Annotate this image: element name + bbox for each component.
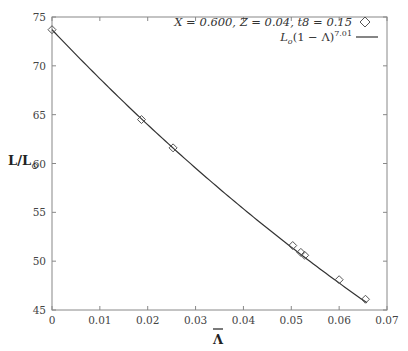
y-tick-label: 75 [33,11,46,23]
legend: X = 0.600, Z = 0.04, t8 = 0.15 Lo(1 − Λ)… [173,15,378,46]
chart-svg: 45505560657075 00.010.020.030.040.050.06… [0,0,408,351]
legend-entry-fit: Lo(1 − Λ)7.01 [279,29,352,46]
x-tick-label: 0.01 [88,314,111,326]
legend-entry-data: X = 0.600, Z = 0.04, t8 = 0.15 [173,15,352,29]
fit-curve [52,30,367,303]
legend-diamond-icon [360,17,370,27]
y-axis-ticks: 45505560657075 [33,11,387,316]
data-markers [48,26,369,304]
x-axis-ticks: 00.010.020.030.040.050.060.07 [49,17,399,326]
y-tick-label: 50 [33,255,46,267]
svg-text:Λ: Λ [212,332,224,347]
x-tick-label: 0.04 [232,314,256,326]
y-tick-label: 45 [33,304,46,316]
y-axis-title: L/L⊙ [8,153,39,171]
x-axis-title: Λ [212,329,224,347]
x-tick-label: 0 [49,314,56,326]
x-tick-label: 0.07 [375,314,398,326]
y-tick-label: 70 [33,60,46,72]
x-tick-label: 0.03 [184,314,207,326]
y-tick-label: 65 [33,109,46,121]
plot-frame [52,17,387,310]
x-tick-label: 0.06 [327,314,351,326]
x-tick-label: 0.02 [136,314,159,326]
y-tick-label: 55 [33,206,46,218]
x-tick-label: 0.05 [280,314,303,326]
